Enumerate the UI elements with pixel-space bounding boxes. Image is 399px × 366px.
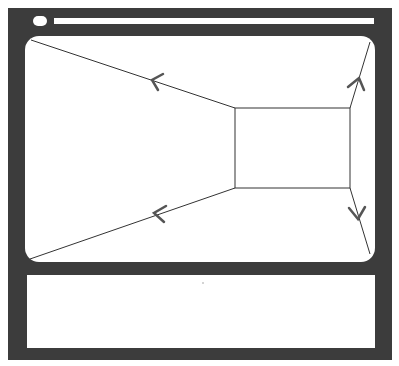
edge-top-right — [350, 42, 370, 108]
edge-bottom-right — [350, 188, 370, 254]
speck — [202, 282, 203, 283]
perspective-scene — [0, 0, 399, 366]
arrow-bottom-right-icon — [349, 207, 365, 219]
edge-top-left — [31, 40, 235, 108]
edge-bottom-left — [30, 188, 235, 259]
inner-rect — [235, 108, 350, 188]
